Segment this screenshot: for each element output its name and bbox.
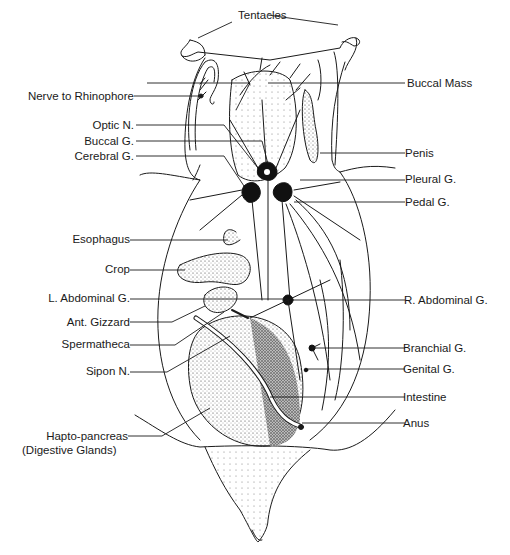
- label-pedal-g: Pedal G.: [405, 196, 450, 209]
- gizzard: [204, 287, 248, 318]
- label-branchial-g: Branchial G.: [403, 342, 466, 355]
- label-sipon-n: Sipon N.: [86, 365, 130, 378]
- label-digestive-glands: (Digestive Glands): [22, 444, 117, 457]
- label-r-abdominal-g: R. Abdominal G.: [404, 294, 488, 307]
- hepatopancreas: [188, 316, 302, 447]
- label-optic-n: Optic N.: [92, 119, 134, 132]
- label-anus: Anus: [403, 417, 429, 430]
- label-hapto-pancreas: Hapto-pancreas: [46, 430, 128, 443]
- label-l-abdominal-g: L. Abdominal G.: [48, 292, 130, 305]
- label-buccal-mass: Buccal Mass: [407, 77, 472, 90]
- label-pleural-g: Pleural G.: [405, 173, 456, 186]
- anatomy-diagram: Tentacles Nerve to Rhinophore Optic N. B…: [0, 0, 510, 555]
- tail-outline: [205, 447, 310, 542]
- label-tentacles: Tentacles: [238, 9, 287, 22]
- label-esophagus: Esophagus: [72, 233, 130, 246]
- label-buccal-g: Buccal G.: [84, 135, 134, 148]
- label-cerebral-g: Cerebral G.: [75, 150, 134, 163]
- label-penis: Penis: [405, 147, 434, 160]
- label-crop: Crop: [105, 263, 130, 276]
- rhinophore: [189, 60, 219, 180]
- label-genital-g: Genital G.: [403, 363, 455, 376]
- label-ant-gizzard: Ant. Gizzard: [67, 316, 130, 329]
- penis: [302, 52, 338, 165]
- label-intestine: Intestine: [403, 391, 446, 404]
- crop: [178, 230, 251, 285]
- label-nerve-to-rhinophore: Nerve to Rhinophore: [28, 90, 134, 103]
- label-spermatheca: Spermatheca: [62, 338, 130, 351]
